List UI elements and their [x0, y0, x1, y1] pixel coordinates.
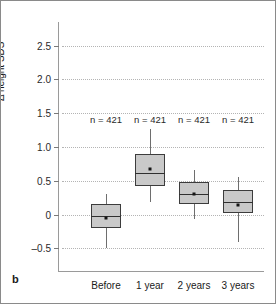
y-tick-label: 2.5	[37, 40, 51, 51]
y-tick-label: 0.5	[37, 175, 51, 186]
y-tick-mark	[54, 79, 59, 80]
y-tick-mark	[54, 181, 59, 182]
y-tick-label: 1.0	[37, 142, 51, 153]
y-axis-title: Δ height SDS	[0, 42, 6, 102]
sample-size-label: n = 421	[90, 113, 122, 124]
y-tick-mark	[54, 248, 59, 249]
box-iqr	[135, 154, 165, 186]
sample-size-label: n = 421	[134, 113, 166, 124]
mean-marker	[237, 204, 240, 207]
mean-marker	[193, 192, 196, 195]
y-tick-mark	[54, 113, 59, 114]
median-line	[135, 173, 165, 174]
panel-letter: b	[12, 273, 19, 285]
y-tick-mark	[54, 215, 59, 216]
y-tick-label: 2.0	[37, 74, 51, 85]
gridline	[62, 248, 264, 249]
sample-size-label: n = 421	[178, 113, 210, 124]
x-tick-label: 2 years	[178, 280, 211, 291]
x-tick-label: 1 year	[136, 280, 164, 291]
y-tick-mark	[54, 46, 59, 47]
y-tick-label: 1.5	[37, 108, 51, 119]
y-tick-mark	[54, 147, 59, 148]
figure-panel-b: b Δ height SDS 2.52.01.51.00.50–0.5 n = …	[0, 0, 276, 304]
gridline	[62, 147, 264, 148]
gridline	[62, 79, 264, 80]
x-tick-label: 3 years	[222, 280, 255, 291]
y-tick-label: –0.5	[32, 243, 51, 254]
median-line	[223, 202, 253, 203]
plot-area: 2.52.01.51.00.50–0.5 n = 421n = 421n = 4…	[58, 22, 264, 272]
x-axis-line	[58, 271, 264, 272]
mean-marker	[105, 216, 108, 219]
x-tick-label: Before	[91, 280, 120, 291]
mean-marker	[149, 167, 152, 170]
gridline	[62, 46, 264, 47]
y-tick-label: 0	[45, 209, 51, 220]
sample-size-label: n = 421	[222, 113, 254, 124]
